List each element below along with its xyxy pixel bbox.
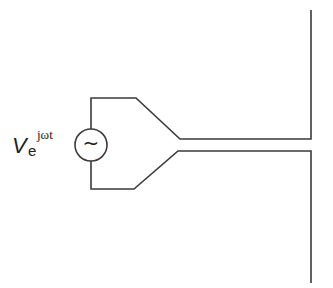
source-label-v: V [12, 133, 27, 159]
source-label-superscript: jωt [37, 127, 53, 143]
diagram-canvas [0, 0, 333, 288]
ac-tilde-icon: ~ [82, 131, 100, 155]
source-label-subscript: e [28, 142, 36, 159]
upper-conductor [91, 10, 311, 139]
lower-conductor [91, 151, 311, 283]
